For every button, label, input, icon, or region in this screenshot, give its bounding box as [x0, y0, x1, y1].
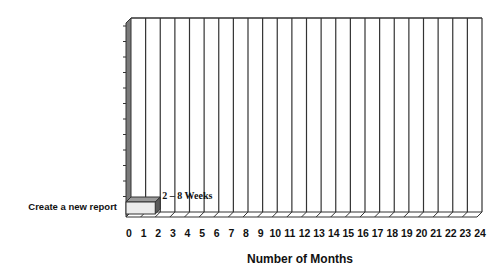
gantt-chart: 2 – 8 Weeks 0123456789101112131415161718…: [0, 0, 504, 274]
x-tick-label: 0: [126, 227, 132, 239]
x-tick-label: 7: [228, 227, 234, 239]
x-tick-label: 8: [243, 227, 249, 239]
x-tick-label: 24: [474, 227, 486, 239]
x-tick-label: 21: [430, 227, 442, 239]
x-tick-label: 1: [141, 227, 147, 239]
left-wall: [126, 18, 131, 217]
chart-bars: 2 – 8 Weeks: [126, 190, 212, 214]
x-tick-label: 15: [343, 227, 355, 239]
category-label: Create a new report: [28, 201, 118, 212]
x-tick-label: 6: [214, 227, 220, 239]
x-axis-label: Number of Months: [247, 252, 353, 266]
x-tick-label: 3: [170, 227, 176, 239]
x-tick-label: 20: [416, 227, 428, 239]
x-tick-label: 4: [185, 227, 191, 239]
x-tick-label: 11: [284, 227, 295, 239]
x-tick-label: 10: [269, 227, 281, 239]
x-axis-ticks: 0123456789101112131415161718192021222324: [126, 227, 486, 239]
x-tick-label: 2: [155, 227, 161, 239]
x-tick-label: 23: [460, 227, 472, 239]
x-tick-label: 18: [386, 227, 398, 239]
x-tick-label: 12: [299, 227, 311, 239]
x-tick-label: 17: [372, 227, 384, 239]
duration-annotation: 2 – 8 Weeks: [162, 190, 212, 201]
bar-create-a-new-report: [126, 197, 160, 214]
x-tick-label: 14: [328, 227, 340, 239]
x-tick-label: 9: [258, 227, 264, 239]
x-tick-label: 13: [313, 227, 325, 239]
category-labels: Create a new report: [28, 201, 118, 212]
x-tick-label: 19: [401, 227, 413, 239]
chart-grid: [123, 18, 482, 217]
x-tick-label: 22: [445, 227, 457, 239]
x-tick-label: 16: [357, 227, 369, 239]
x-tick-label: 5: [199, 227, 205, 239]
